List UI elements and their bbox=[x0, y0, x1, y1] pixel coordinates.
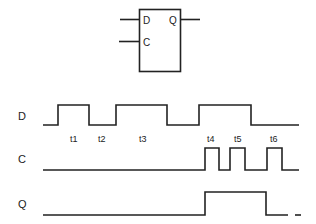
d-latch-timing-diagram: D C Q D C Q t1 t2 t3 t4 t5 t6 bbox=[0, 0, 316, 224]
time-marker-t4: t4 bbox=[207, 134, 215, 144]
q-pin-label: Q bbox=[169, 15, 177, 26]
q-waveform bbox=[43, 192, 288, 215]
flip-flop-symbol bbox=[119, 10, 200, 72]
signal-label-c: C bbox=[18, 153, 26, 165]
time-marker-t1: t1 bbox=[70, 134, 78, 144]
time-marker-t6: t6 bbox=[270, 134, 278, 144]
time-marker-t2: t2 bbox=[98, 134, 106, 144]
c-pin-label: C bbox=[143, 37, 150, 48]
d-pin-label: D bbox=[143, 15, 150, 26]
signal-label-d: D bbox=[18, 110, 26, 122]
time-marker-t5: t5 bbox=[234, 134, 242, 144]
d-waveform bbox=[43, 105, 299, 125]
c-waveform bbox=[43, 148, 299, 170]
time-marker-t3: t3 bbox=[139, 134, 147, 144]
signal-label-q: Q bbox=[18, 198, 27, 210]
